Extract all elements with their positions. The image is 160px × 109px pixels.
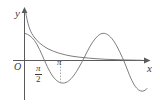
plot-canvas — [0, 0, 160, 109]
fraction-denominator: 2 — [35, 75, 42, 84]
decay-curve — [26, 11, 143, 60]
math-figure: y x O π π 2 — [0, 0, 160, 109]
x-axis-label: x — [147, 63, 152, 74]
tick-label-pi: π — [57, 58, 62, 67]
y-axis-arrowhead — [22, 7, 28, 13]
fraction-numerator: π — [35, 64, 42, 73]
fraction-pi-over-two: π 2 — [35, 64, 42, 84]
damped-oscillation-curve — [26, 33, 148, 91]
tick-label-pi-over-two: π 2 — [35, 64, 42, 84]
origin-label: O — [14, 62, 21, 72]
y-axis-label: y — [15, 8, 20, 19]
